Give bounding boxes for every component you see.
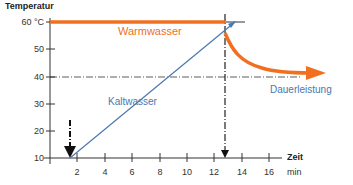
y-tick-label-20: 20	[34, 126, 44, 136]
x-axis-unit: min	[287, 167, 302, 177]
dauerleistung-curve	[225, 33, 310, 73]
y-tick-label-10: 10	[34, 153, 44, 163]
dauerleistung-arrow-icon	[306, 66, 326, 80]
x-tick-label-4: 4	[102, 167, 107, 177]
x-tick-label-12: 12	[209, 167, 219, 177]
x-axis-title: Zeit	[287, 152, 303, 162]
chart: Temperatur 60 °C 50 40 30 20 10 2 4 6 8 …	[0, 0, 353, 185]
kaltwasser-line	[70, 22, 235, 158]
end-arrow-icon	[221, 150, 229, 158]
y-axis-title: Temperatur	[5, 1, 54, 11]
y-tick-label-60: 60 °C	[21, 17, 44, 27]
y-tick-label-40: 40	[34, 72, 44, 82]
y-tick-label-50: 50	[34, 44, 44, 54]
x-tick-label-10: 10	[182, 167, 192, 177]
dauerleistung-label: Dauerleistung	[270, 84, 332, 95]
warmwasser-label: Warmwasser	[118, 25, 182, 37]
x-tick-label-16: 16	[264, 167, 274, 177]
start-arrow-icon	[64, 146, 76, 158]
x-tick-label-8: 8	[157, 167, 162, 177]
x-tick-label-14: 14	[237, 167, 247, 177]
x-tick-label-6: 6	[129, 167, 134, 177]
x-tick-label-2: 2	[74, 167, 79, 177]
y-tick-label-30: 30	[34, 99, 44, 109]
kaltwasser-label: Kaltwasser	[108, 96, 158, 107]
